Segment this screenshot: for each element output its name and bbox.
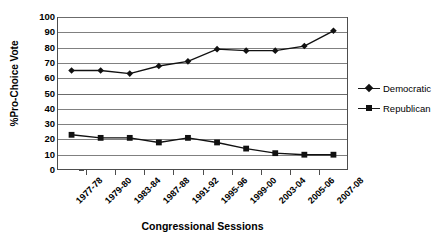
gridline [58, 17, 347, 18]
x-tick-label: 2007-08 [336, 176, 366, 206]
x-tick-mark [144, 170, 145, 175]
x-tick-label: 1979-80 [103, 176, 133, 206]
x-tick-mark [115, 170, 116, 175]
gridline [58, 63, 347, 64]
x-tick-label: 1995-96 [220, 176, 250, 206]
x-tick-label: 2003-04 [278, 176, 308, 206]
x-tick-mark [203, 170, 204, 175]
legend-marker-square-icon [358, 103, 380, 113]
x-tick-mark [290, 170, 291, 175]
legend-item-republican[interactable]: Republican [358, 100, 431, 116]
x-tick-mark [86, 170, 87, 175]
y-tick-label: 20 [44, 134, 55, 144]
x-tick-label: 1991-92 [191, 176, 221, 206]
y-tick-label: 70 [44, 58, 55, 68]
gridline [58, 94, 347, 95]
x-axis-title: Congressional Sessions [57, 220, 348, 232]
legend-label: Republican [383, 103, 431, 114]
chart-container: %Pro-Choice Vote 0102030405060708090100 … [0, 0, 436, 243]
gridline [58, 155, 347, 156]
gridline [58, 78, 347, 79]
x-tick-label: 1999-00 [249, 176, 279, 206]
gridline [58, 48, 347, 49]
y-axis-ticks: 0102030405060708090100 [27, 11, 55, 176]
x-tick-mark [319, 170, 320, 175]
gridline [58, 139, 347, 140]
x-tick-mark [261, 170, 262, 175]
y-tick-label: 10 [44, 150, 55, 160]
gridline [58, 124, 347, 125]
legend-item-democratic[interactable]: Democratic [358, 80, 431, 96]
y-tick-label: 0 [50, 165, 55, 175]
y-tick-mark [79, 170, 84, 171]
y-tick-label: 30 [44, 119, 55, 129]
gridline [58, 109, 347, 110]
y-tick-label: 50 [44, 89, 55, 99]
chart-legend: Democratic Republican [358, 80, 431, 120]
y-tick-label: 100 [39, 12, 55, 22]
y-tick-label: 40 [44, 104, 55, 114]
gridline [58, 32, 347, 33]
y-tick-label: 90 [44, 27, 55, 37]
x-tick-label: 1983-84 [132, 176, 162, 206]
x-tick-label: 1977-78 [74, 176, 104, 206]
x-tick-mark [232, 170, 233, 175]
plot-area [57, 17, 348, 170]
legend-label: Democratic [383, 83, 431, 94]
y-axis-title: %Pro-Choice Vote [9, 24, 20, 144]
x-tick-label: 1987-88 [162, 176, 192, 206]
y-tick-label: 60 [44, 73, 55, 83]
y-tick-label: 80 [44, 43, 55, 53]
x-tick-mark [173, 170, 174, 175]
legend-marker-diamond-icon [358, 83, 380, 93]
x-tick-label: 2005-06 [307, 176, 337, 206]
